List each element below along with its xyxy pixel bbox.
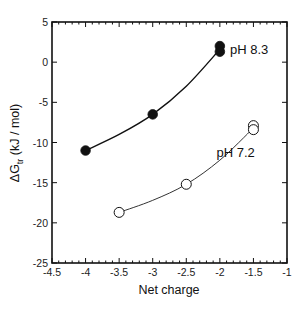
x-tick-label: -1 xyxy=(282,266,291,278)
fit-curve xyxy=(119,128,253,212)
plot-area: pH 8.3pH 7.2 xyxy=(81,41,268,217)
series-ph-8-3: pH 8.3 xyxy=(81,41,268,155)
open-circle-marker xyxy=(181,179,191,189)
series-label: pH 8.3 xyxy=(230,42,268,57)
x-axis-title: Net charge xyxy=(138,283,199,297)
plot-frame xyxy=(52,22,287,263)
y-tick-label: -25 xyxy=(33,257,48,269)
y-tick-label: -10 xyxy=(33,137,48,149)
filled-circle-marker xyxy=(215,47,225,57)
x-tick-label: -2 xyxy=(215,266,224,278)
chart-canvas: pH 8.3pH 7.2 -4.5-4-3.5-3-2.5-2-1.5-1-25… xyxy=(0,0,304,311)
y-axis-title-unit: (kJ / mol) xyxy=(8,104,22,159)
open-circle-marker xyxy=(248,125,258,135)
series-label: pH 7.2 xyxy=(217,145,255,160)
y-tick-label: -20 xyxy=(33,217,48,229)
y-tick-label: -5 xyxy=(39,96,48,108)
y-axis-title-main: ΔG xyxy=(8,164,22,182)
x-tick-label: -3 xyxy=(148,266,157,278)
y-tick-label: 5 xyxy=(42,16,48,28)
fit-curve xyxy=(86,49,220,150)
x-tick-label: -2.5 xyxy=(177,266,195,278)
x-tick-label: -3.5 xyxy=(110,266,128,278)
open-circle-marker xyxy=(114,207,124,217)
y-tick-label: 0 xyxy=(42,56,48,68)
series-ph-7-2: pH 7.2 xyxy=(114,121,258,218)
filled-circle-marker xyxy=(148,110,158,120)
y-axis-title: ΔGtr (kJ / mol) xyxy=(8,104,25,182)
x-tick-label: -1.5 xyxy=(244,266,262,278)
x-tick-label: -4 xyxy=(81,266,90,278)
filled-circle-marker xyxy=(81,146,91,156)
y-tick-label: -15 xyxy=(33,177,48,189)
